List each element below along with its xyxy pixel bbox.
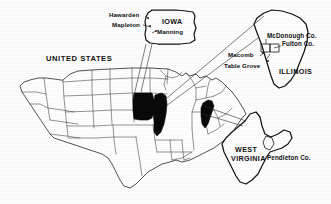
iowa-inset-outline: [145, 10, 196, 44]
illinois-state-label: ILLINOIS: [279, 67, 312, 76]
west-virginia-state-label-line2: VIRGINIA: [231, 154, 266, 163]
country-label: UNITED STATES: [46, 54, 112, 63]
west-virginia-state-label-line1: WEST: [235, 145, 257, 154]
locality-label-manning: Manning: [157, 28, 183, 35]
locality-label-table-grove: Table Grove: [224, 62, 261, 69]
locality-label-mapleton: Mapleton: [112, 21, 140, 28]
united-states-map: UNITED STATES: [20, 54, 246, 188]
locality-label-hawarden: Hawarden: [109, 11, 139, 18]
county-label-mcdonough: McDonough Co.: [267, 32, 317, 40]
highlighted-state-iowa: [133, 93, 155, 120]
locality-dot-table-grove: [267, 60, 269, 62]
illinois-inset-outline: [254, 10, 308, 88]
locality-dot-macomb: [262, 52, 264, 54]
iowa-state-label: IOWA: [162, 17, 183, 26]
county-label-fulton: Fulton Co.: [282, 40, 314, 47]
locality-map-figure: UNITED STATES IOWA Hawarden Mapleton Man…: [0, 0, 331, 204]
county-label-pendleton: Pendleton Co.: [267, 154, 311, 161]
map-canvas: UNITED STATES IOWA Hawarden Mapleton Man…: [0, 0, 331, 204]
usa-national-outline: [20, 68, 246, 188]
